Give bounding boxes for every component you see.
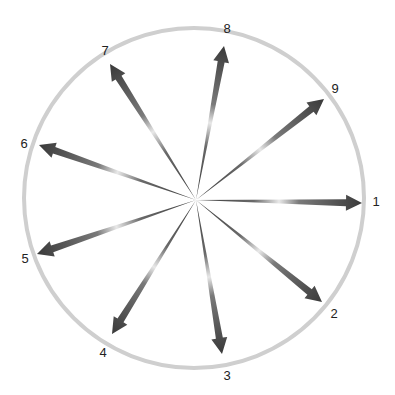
- diagram-canvas: [0, 0, 395, 395]
- arrow-label-5: 5: [21, 252, 28, 265]
- arrows-group: [37, 46, 362, 354]
- arrow-5: [37, 200, 196, 256]
- arrow-label-2: 2: [330, 307, 337, 320]
- arrow-label-3: 3: [223, 369, 230, 382]
- arrow-label-1: 1: [372, 195, 379, 208]
- arrow-2: [196, 200, 322, 302]
- arrow-label-6: 6: [20, 137, 27, 150]
- arrow-4: [112, 200, 196, 334]
- radial-arrow-diagram: 123456789: [0, 0, 395, 395]
- arrow-7: [110, 64, 196, 200]
- arrow-9: [196, 99, 324, 200]
- outer-circle: [24, 28, 364, 368]
- arrow-label-4: 4: [99, 346, 106, 359]
- arrow-label-8: 8: [223, 22, 230, 35]
- arrow-1: [196, 195, 362, 211]
- arrow-3: [196, 200, 227, 354]
- arrow-label-7: 7: [101, 44, 108, 57]
- arrow-label-9: 9: [331, 82, 338, 95]
- arrow-6: [39, 143, 196, 200]
